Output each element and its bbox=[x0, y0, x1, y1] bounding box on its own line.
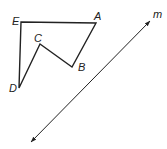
vertex-label-a: A bbox=[93, 10, 101, 22]
line-m-label: m bbox=[153, 8, 162, 20]
vertex-label-d: D bbox=[9, 82, 17, 94]
line-m bbox=[31, 21, 150, 142]
vertex-label-b: B bbox=[78, 61, 85, 73]
polygon-abcde bbox=[19, 22, 96, 88]
vertex-label-e: E bbox=[12, 15, 20, 27]
vertex-label-c: C bbox=[34, 32, 42, 44]
geometry-diagram: EABCD m bbox=[0, 0, 167, 149]
